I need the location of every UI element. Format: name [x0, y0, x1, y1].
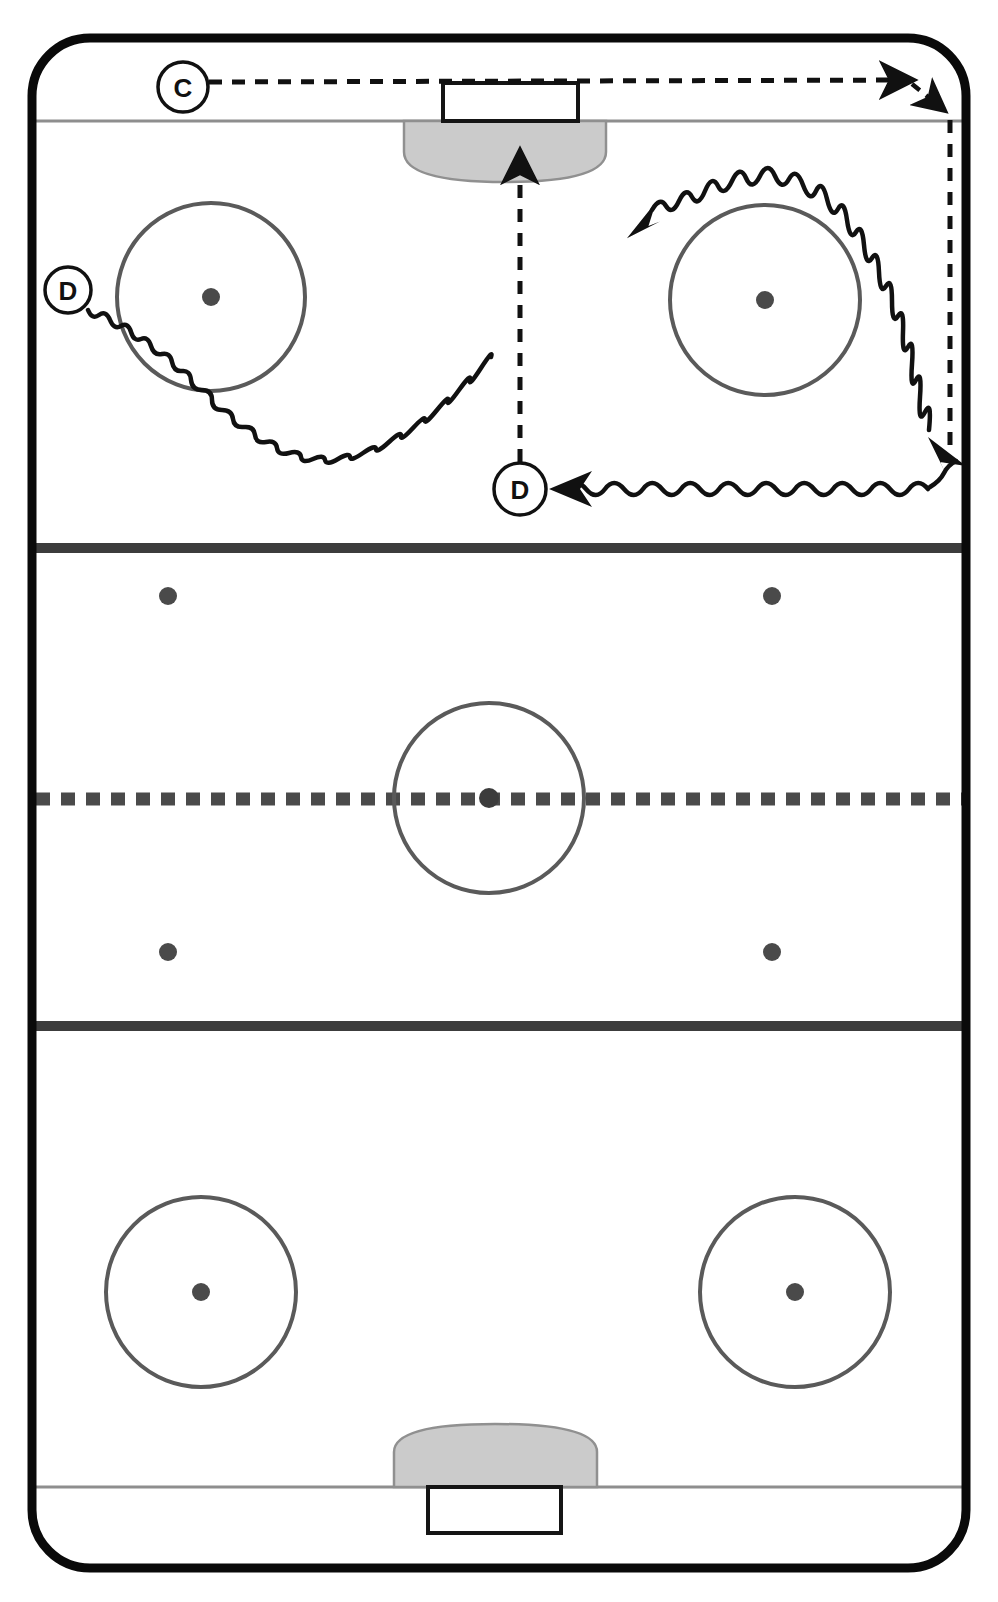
faceoff-dot-neutral-bottom-right — [763, 943, 781, 961]
player-label-d-left[interactable]: D — [45, 267, 91, 313]
faceoff-dot-top-left — [202, 288, 220, 306]
player-label-d-slot-circle — [494, 463, 546, 515]
faceoff-dot-bottom-left — [192, 1283, 210, 1301]
player-label-c-circle — [158, 62, 208, 112]
rink-svg: C D D — [0, 0, 998, 1602]
faceoff-dot-neutral-bottom-left — [159, 943, 177, 961]
center-ice-dot — [479, 788, 499, 808]
faceoff-dot-top-right — [756, 291, 774, 309]
goal-net-bottom — [428, 1487, 561, 1533]
faceoff-dot-neutral-top-right — [763, 587, 781, 605]
faceoff-dot-neutral-top-left — [159, 587, 177, 605]
hockey-rink-diagram: C D D — [0, 0, 998, 1602]
player-label-d-left-circle — [45, 267, 91, 313]
faceoff-dot-bottom-right — [786, 1283, 804, 1301]
goal-net-top — [443, 83, 578, 121]
goal-crease-top — [404, 121, 606, 182]
goal-crease-bottom — [394, 1424, 597, 1487]
player-label-d-slot[interactable]: D — [494, 463, 546, 515]
player-label-c[interactable]: C — [158, 62, 208, 112]
